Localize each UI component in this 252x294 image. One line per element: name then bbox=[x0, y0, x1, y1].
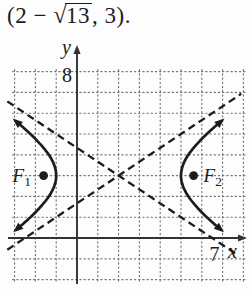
radicand: 13 bbox=[65, 3, 92, 28]
x-axis-label: x bbox=[227, 240, 237, 262]
x-axis-arrowhead bbox=[238, 234, 247, 241]
coordinate-expression: (2 − √13, 3). bbox=[7, 1, 131, 29]
y-tick-8: 8 bbox=[62, 64, 72, 86]
hyperbola-graph-canvas: F1F2y87x bbox=[0, 40, 252, 294]
focus-label-1: F1 bbox=[12, 165, 31, 190]
expression-suffix: , 3). bbox=[92, 3, 131, 28]
expression-prefix: (2 − bbox=[7, 3, 53, 28]
textbook-figure-page: (2 − √13, 3). F1F2y87x bbox=[0, 0, 252, 294]
focus-label-2: F2 bbox=[203, 165, 222, 190]
focus-dot-1 bbox=[39, 171, 48, 180]
focus-dot-2 bbox=[189, 171, 198, 180]
y-axis-label: y bbox=[60, 40, 71, 59]
y-axis-arrowhead bbox=[73, 45, 80, 54]
square-root: √13 bbox=[53, 1, 92, 29]
x-tick-7: 7 bbox=[210, 243, 220, 265]
